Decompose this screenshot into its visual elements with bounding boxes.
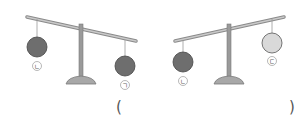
base	[214, 76, 244, 84]
label-nieun: ㄴ	[180, 78, 186, 86]
answer-open-paren: (	[116, 98, 122, 116]
balance-illustration: ㄴ ㄱ ㄴ ㄷ	[0, 0, 303, 133]
ball-nieun	[27, 37, 47, 57]
label-nieun: ㄴ	[34, 63, 40, 71]
scale-left: ㄴ ㄱ	[27, 17, 136, 90]
base	[66, 76, 96, 84]
scale-right: ㄴ ㄷ	[173, 17, 284, 86]
answer-close-paren: )	[289, 98, 295, 116]
ball-digeut	[262, 33, 282, 53]
ball-nieun	[173, 52, 193, 72]
pillar	[79, 24, 83, 78]
pillar	[227, 24, 231, 78]
label-giyeok: ㄱ	[122, 82, 128, 90]
ball-giyeok	[115, 56, 135, 76]
label-digeut: ㄷ	[269, 58, 275, 66]
